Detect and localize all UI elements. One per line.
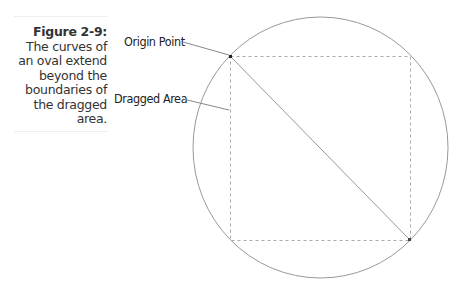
oval-diagram xyxy=(0,0,460,288)
end-point-marker xyxy=(408,238,411,241)
origin-point-marker xyxy=(229,55,232,58)
dragged-leader-line xyxy=(183,99,229,110)
origin-leader-line xyxy=(183,42,229,55)
drag-diagonal xyxy=(231,57,411,241)
